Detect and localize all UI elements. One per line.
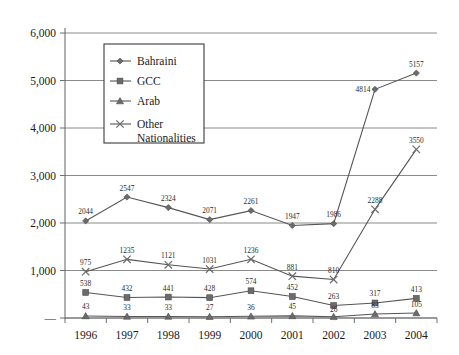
data-label-bahraini: 2324 [161,194,176,203]
data-label-other-nationalities: 810 [328,266,339,275]
x-axis-label: 1997 [116,329,139,341]
data-label-gcc: 452 [287,283,298,292]
x-axis-label: 2000 [240,329,263,341]
data-label-bahraini: 4814 [356,85,371,94]
data-label-other-nationalities: 1235 [120,246,135,255]
data-label-arab: 33 [123,303,131,312]
y-axis-label: 1,000 [30,265,56,278]
y-axis-label: — [44,312,57,324]
data-label-other-nationalities: 1121 [161,251,176,260]
legend-label-other[interactable]: Other [137,118,163,130]
data-label-gcc: 317 [369,289,380,298]
data-label-other-nationalities: 881 [287,263,298,272]
data-label-arab: 27 [206,303,214,312]
marker-other-nationalities [247,256,254,263]
x-axis-label: 2003 [364,329,387,341]
x-axis-label: 1999 [198,329,221,341]
data-label-other-nationalities: 1236 [244,246,259,255]
marker-other-nationalities [82,268,89,275]
data-label-gcc: 538 [80,279,91,288]
marker-bahraini [124,194,130,200]
x-axis-label: 2001 [281,329,304,341]
data-label-other-nationalities: 1031 [202,256,217,265]
data-label-bahraini: 2044 [78,207,93,216]
x-axis-label: 1998 [157,329,180,341]
marker-bahraini [331,221,337,227]
y-axis-label: 6,000 [30,27,56,40]
x-axis-label: 1996 [74,329,97,341]
data-label-gcc: 413 [411,285,422,294]
data-label-arab: 33 [165,303,173,312]
y-axis-label: 2,000 [30,217,56,230]
data-label-arab: 45 [289,302,297,311]
data-label-arab: 43 [82,302,90,311]
data-label-other-nationalities: 3550 [409,136,424,145]
data-label-gcc: 263 [328,292,339,301]
marker-gcc [248,288,254,294]
x-axis-label: 2004 [405,329,428,341]
marker-gcc [83,290,89,296]
data-label-other-nationalities: 2288 [368,196,383,205]
marker-gcc [124,295,130,301]
data-label-arab: 83 [371,301,379,310]
marker-bahraini [413,70,419,76]
data-label-arab: 36 [247,303,255,312]
data-label-arab: 26 [330,305,338,314]
clipped-caption [299,0,301,7]
data-label-gcc: 428 [204,284,215,293]
legend-label-gcc[interactable]: GCC [137,75,161,87]
marker-bahraini [372,86,378,92]
legend-label-arab[interactable]: Arab [137,95,160,107]
marker-gcc [207,295,213,301]
data-label-arab: 105 [411,300,422,309]
data-label-bahraini: 2547 [120,184,135,193]
data-label-bahraini: 2071 [202,206,217,215]
y-axis-label: 5,000 [30,75,56,88]
legend-label-bahraini[interactable]: Bahraini [137,55,177,67]
data-label-bahraini: 1947 [285,212,300,221]
data-label-gcc: 441 [163,284,174,293]
legend-label-other-nationalities-line2[interactable]: Nationalities [137,132,196,144]
chart-canvas: —1,0002,0003,0004,0005,0006,000199619971… [0,0,459,355]
marker-bahraini [207,217,213,223]
line-chart: —1,0002,0003,0004,0005,0006,000199619971… [0,0,459,355]
y-axis-label: 3,000 [30,170,56,183]
legend-marker-gcc [117,78,123,84]
data-label-gcc: 432 [121,284,132,293]
marker-gcc [289,294,295,300]
data-label-bahraini: 5157 [409,60,424,69]
data-label-other-nationalities: 975 [80,258,91,267]
marker-bahraini [165,205,171,211]
data-label-bahraini: 2261 [244,197,259,206]
data-label-gcc: 574 [245,277,256,286]
x-axis-label: 2002 [322,329,345,341]
marker-gcc [165,294,171,300]
marker-other-nationalities [371,206,378,213]
marker-other-nationalities [413,146,420,153]
marker-bahraini [248,208,254,214]
y-axis-label: 4,000 [30,122,56,135]
data-label-bahraini: 1986 [326,210,341,219]
